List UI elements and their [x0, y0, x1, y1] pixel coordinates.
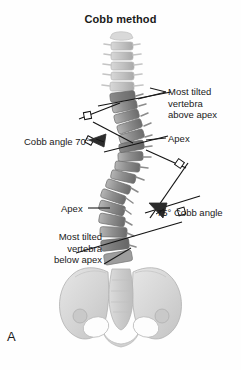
label-most-tilted-vertebra-below-apex: Most tilted vertebra below apex — [10, 231, 102, 266]
label-cobb-angle-upper: Cobb angle 70° — [24, 136, 90, 148]
pelvis-group — [60, 268, 182, 347]
cervical-spine-group — [102, 32, 143, 91]
cobb-method-figure: Cobb method — [0, 0, 241, 370]
label-most-tilted-vertebra-above-apex: Most tilted vertebra above apex — [168, 86, 217, 121]
label-cobb-angle-lower: 75° Cobb angle — [157, 207, 223, 219]
panel-letter: A — [7, 329, 16, 344]
label-apex-lower: Apex — [61, 203, 83, 215]
label-apex-upper: Apex — [168, 133, 190, 145]
spine-illustration — [0, 0, 241, 370]
